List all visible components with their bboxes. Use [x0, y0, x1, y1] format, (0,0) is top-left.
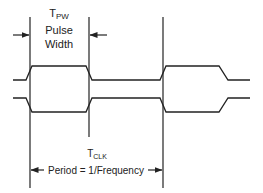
- clock-signal: [13, 66, 250, 80]
- pulse-width-label-line2: Width: [45, 38, 73, 50]
- pulse-width-label-line1: Pulse: [45, 24, 73, 36]
- timing-diagram: TPW Pulse Width TCLK Period = 1/Frequenc…: [0, 0, 263, 193]
- clock-period-label: Period = 1/Frequency: [48, 165, 144, 176]
- clock-inverted-signal: [13, 98, 250, 112]
- clock-period-symbol: TCLK: [87, 148, 107, 160]
- pulse-width-symbol: TPW: [49, 7, 69, 21]
